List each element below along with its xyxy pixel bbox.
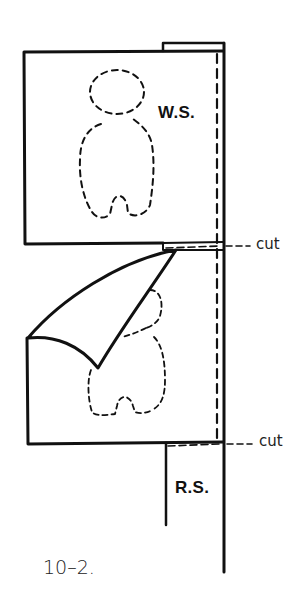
fabric-cutting-diagram (0, 0, 304, 599)
top-panel-wrong-side (24, 51, 223, 244)
right-side-label: R.S. (175, 478, 209, 498)
peeled-corner (28, 250, 176, 368)
cut-label-bottom: cut (259, 432, 283, 450)
lower-panel (27, 338, 223, 444)
wrong-side-label: W.S. (158, 103, 195, 123)
figure-number: 10–2. (43, 556, 95, 578)
doll-outline-top (80, 70, 154, 218)
cut-label-top: cut (256, 235, 280, 253)
